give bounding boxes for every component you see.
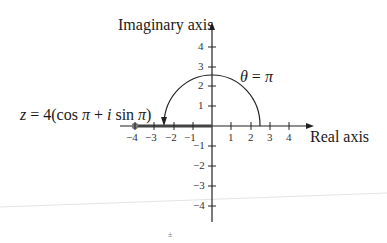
x-tick-label: −3 bbox=[145, 131, 157, 143]
y-tick-label: 1 bbox=[198, 99, 204, 111]
y-tick-label: 2 bbox=[198, 79, 204, 91]
y-tick-label: −2 bbox=[193, 159, 205, 171]
y-tick-label: 4 bbox=[198, 40, 204, 52]
x-tick-label: −4 bbox=[126, 131, 138, 143]
x-tick-label: 1 bbox=[228, 131, 234, 143]
x-tick-label: 2 bbox=[248, 131, 254, 143]
real-axis-label: Real axis bbox=[310, 128, 369, 146]
point-z-label: z = 4(cos π + i sin π) bbox=[20, 106, 151, 124]
y-tick-label: −1 bbox=[193, 139, 205, 151]
x-tick-label: 4 bbox=[286, 131, 292, 143]
y-tick-label: 3 bbox=[198, 60, 204, 72]
angle-label: θ = π bbox=[240, 68, 273, 86]
y-tick-label: −4 bbox=[193, 199, 205, 211]
y-tick-label: −3 bbox=[193, 179, 205, 191]
footer-mark: ± bbox=[168, 230, 172, 239]
imaginary-axis-label: Imaginary axis bbox=[118, 16, 214, 34]
x-tick-label: −2 bbox=[165, 131, 177, 143]
x-tick-label: 3 bbox=[267, 131, 273, 143]
